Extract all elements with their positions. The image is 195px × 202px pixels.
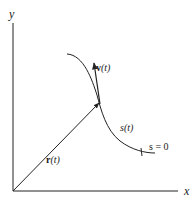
x-axis-label: x: [183, 184, 190, 198]
y-axis-label: y: [8, 7, 15, 21]
curve-path: [67, 54, 155, 153]
position-label: r(t): [46, 154, 61, 166]
arc-origin-label: s = 0: [149, 141, 169, 152]
arc-origin-tick: [141, 148, 142, 156]
arc-length-label: s(t): [120, 122, 134, 134]
velocity-label: v(t): [96, 62, 111, 74]
position-vector-arrow: [13, 103, 99, 191]
diagram-canvas: y x v(t) r(t) s(t) s = 0: [0, 0, 195, 202]
